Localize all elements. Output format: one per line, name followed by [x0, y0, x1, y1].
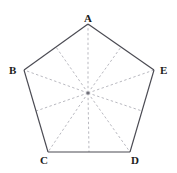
- edge-EA: [88, 24, 154, 70]
- apothem-O-DE: [88, 93, 142, 111]
- vertex-label-d: D: [131, 155, 139, 166]
- center-point-dot: [87, 92, 90, 95]
- apothem-O-EA: [88, 47, 121, 93]
- apothem-O-CD: [88, 93, 89, 152]
- edge-DE: [130, 70, 154, 152]
- edge-AB: [24, 24, 88, 70]
- apothem-group: [36, 47, 142, 152]
- pentagon-diagram-svg: [0, 0, 177, 173]
- radius-OC: [48, 93, 88, 152]
- radius-OD: [88, 93, 130, 152]
- vertex-label-e: E: [160, 65, 167, 76]
- radius-OE: [88, 70, 154, 93]
- edge-BC: [24, 70, 48, 152]
- apothem-O-BC: [36, 93, 88, 111]
- vertex-label-b: B: [9, 65, 16, 76]
- vertex-label-c: C: [40, 155, 48, 166]
- vertex-label-a: A: [84, 13, 92, 24]
- geometry-figure: A B C D E: [0, 0, 177, 173]
- apothem-O-AB: [56, 47, 88, 93]
- radius-OB: [24, 70, 88, 93]
